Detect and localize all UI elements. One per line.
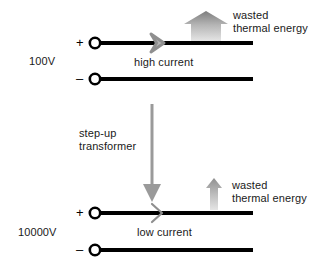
top-circuit-minus-sign: – [76, 72, 83, 85]
wasted-energy-label-top-line1: wasted [233, 9, 268, 22]
bottom-circuit-minus-sign: – [76, 243, 83, 256]
bottom-circuit-negative-wire [90, 245, 253, 255]
low-current-label: low current [137, 226, 192, 239]
wasted-energy-label-top-line2: thermal energy [233, 22, 308, 35]
top-circuit-plus-sign: + [76, 36, 84, 49]
top-circuit-voltage-label: 100V [29, 55, 55, 68]
top-circuit-positive-wire [90, 38, 253, 48]
high-current-label: high current [134, 56, 193, 69]
top-circuit-negative-wire [90, 74, 253, 84]
bottom-circuit-positive-wire [90, 208, 253, 218]
wasted-energy-label-bottom-line2: thermal energy [232, 192, 307, 205]
step-up-transformer-arrow [143, 104, 161, 202]
transformer-label-line2: transformer [79, 140, 136, 153]
wasted-energy-arrow-small [206, 178, 222, 210]
transformer-diagram: + – 100V high current wasted thermal ene… [0, 0, 322, 267]
bottom-circuit-plus-sign: + [76, 206, 84, 219]
wasted-energy-label-bottom-line1: wasted [232, 179, 267, 192]
bottom-circuit-voltage-label: 10000V [18, 226, 57, 239]
wasted-energy-arrow-large [184, 11, 228, 42]
transformer-label-line1: step-up [79, 127, 116, 140]
